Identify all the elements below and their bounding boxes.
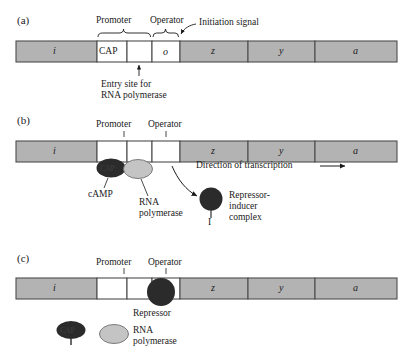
panel-a-brackets bbox=[98, 29, 179, 37]
panel-a-segment-z-label: z bbox=[211, 45, 215, 56]
rna-polymerase-icon bbox=[124, 160, 153, 179]
bracket-promoter-a bbox=[98, 29, 151, 37]
panel-b-segment-y-label: y bbox=[279, 145, 283, 156]
direction-of-transcription-label: Direction of transcription bbox=[196, 160, 293, 171]
entry-site-label-line2: RNA polymerase bbox=[101, 90, 167, 101]
repressor-inducer-icon bbox=[200, 188, 223, 211]
segment-o bbox=[152, 141, 180, 162]
panel-a-segment-o-label: o bbox=[163, 46, 168, 57]
panel-c-gene-bar bbox=[16, 278, 397, 299]
panel-a-segment-y-label: y bbox=[279, 45, 283, 56]
rna-polymerase-label-line1: RNA bbox=[139, 197, 159, 208]
panel-a-bracket-promoter-label: Promoter bbox=[96, 15, 131, 25]
panel-b-bracket-operator-label: Operator bbox=[148, 119, 182, 129]
rna-polymerase-label-line2: polymerase bbox=[139, 208, 183, 219]
panel-b-segment-z-label: z bbox=[211, 145, 215, 156]
panel-c-brackets bbox=[124, 268, 166, 274]
repressor-inducer-label-line3: complex bbox=[229, 212, 262, 223]
panel-b-segment-a-label: a bbox=[353, 145, 358, 156]
panel-c-segment-y-label: y bbox=[279, 282, 283, 293]
panel-a-segment-cap-label: CAP bbox=[99, 46, 117, 56]
camp-leader bbox=[104, 178, 108, 188]
legend-cap-label: CAP bbox=[60, 326, 75, 335]
panel-b-label: (b) bbox=[17, 114, 30, 126]
bracket-operator-a bbox=[153, 29, 179, 37]
legend-polymerase-label-line2: polymerase bbox=[133, 336, 177, 347]
polymerase-leader bbox=[141, 179, 148, 196]
segment-entry-site bbox=[127, 41, 152, 62]
panel-b-bracket-promoter-label: Promoter bbox=[96, 119, 131, 129]
segment-i bbox=[16, 278, 97, 299]
panel-c-bracket-promoter-label: Promoter bbox=[96, 257, 131, 267]
figure-canvas: (a) Promoter Operator Initiation signal … bbox=[0, 0, 413, 362]
legend-polymerase-icon bbox=[100, 325, 129, 344]
segment-i bbox=[16, 41, 97, 62]
panel-c-segment-a-label: a bbox=[353, 282, 358, 293]
camp-label: cAMP bbox=[88, 189, 113, 200]
repressor-release-arrow bbox=[172, 166, 197, 196]
panel-a-bracket-operator-label: Operator bbox=[150, 15, 184, 25]
panel-a-segment-a-label: a bbox=[353, 45, 358, 56]
panel-b-segment-i-label: i bbox=[53, 145, 56, 156]
panel-a-gene-bar bbox=[16, 41, 397, 62]
panel-b-cap-protein-label: CAP bbox=[100, 164, 115, 173]
repressor-inducer-label-line1: Repressor- bbox=[229, 190, 270, 201]
panel-c-bracket-operator-label: Operator bbox=[148, 257, 182, 267]
panel-c-label: (c) bbox=[17, 252, 29, 264]
segment-i bbox=[16, 141, 97, 162]
panel-b-brackets bbox=[124, 131, 166, 137]
segment-cap bbox=[97, 278, 127, 299]
inducer-label: I bbox=[208, 217, 211, 228]
initiation-signal-label: Initiation signal bbox=[199, 17, 259, 28]
panel-a-segment-i-label: i bbox=[53, 45, 56, 56]
panel-b-gene-bar bbox=[16, 141, 397, 162]
repressor-label: Repressor bbox=[133, 308, 171, 319]
repressor-icon bbox=[147, 278, 175, 306]
entry-site-label-line1: Entry site for bbox=[101, 79, 151, 90]
repressor-inducer-label-line2: inducer bbox=[229, 201, 258, 212]
panel-a-label: (a) bbox=[17, 14, 29, 26]
diagram-vector-layer bbox=[0, 0, 413, 362]
panel-c-segment-i-label: i bbox=[53, 282, 56, 293]
legend-polymerase-label-line1: RNA bbox=[133, 325, 153, 336]
panel-c-segment-z-label: z bbox=[211, 282, 215, 293]
segment-entry-site bbox=[127, 141, 152, 162]
initiation-signal-leader bbox=[181, 24, 196, 34]
